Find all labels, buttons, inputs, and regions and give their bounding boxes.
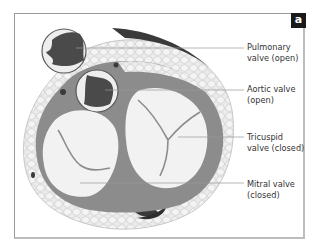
- label-line: (open): [247, 95, 295, 106]
- label-line: Aortic valve: [247, 84, 295, 95]
- label-line: (closed): [247, 190, 295, 201]
- label-line: Tricuspid: [247, 132, 304, 143]
- dark-spot: [31, 172, 35, 178]
- heart-valves-illustration: [0, 0, 316, 246]
- aortic-valve: [76, 70, 118, 112]
- label-line: valve (open): [247, 53, 298, 64]
- label-line: valve (closed): [247, 143, 304, 154]
- label-line: Pulmonary: [247, 42, 298, 53]
- dark-spot: [60, 89, 66, 95]
- label-line: Mitral valve: [247, 179, 295, 190]
- label-mitral-valve: Mitral valve (closed): [247, 179, 295, 200]
- label-aortic-valve: Aortic valve (open): [247, 84, 295, 105]
- pulmonary-valve: [42, 29, 86, 73]
- dark-spot: [114, 63, 119, 68]
- label-tricuspid-valve: Tricuspid valve (closed): [247, 132, 304, 153]
- panel-badge: a: [291, 13, 306, 28]
- label-pulmonary-valve: Pulmonary valve (open): [247, 42, 298, 63]
